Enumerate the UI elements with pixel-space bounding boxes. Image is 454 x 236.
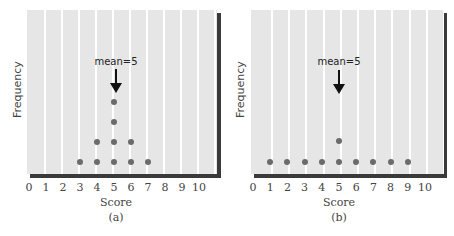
gridline — [409, 10, 411, 174]
data-dot — [405, 159, 411, 165]
x-tick-label: 6 — [128, 181, 135, 194]
gridline — [374, 10, 376, 174]
x-axis-label: Score — [323, 196, 355, 209]
gridline — [214, 10, 216, 174]
x-tick-label: 0 — [250, 181, 257, 194]
x-tick-label: 2 — [284, 181, 291, 194]
gridline — [357, 10, 359, 174]
gridline — [146, 10, 148, 174]
x-tick-label: 9 — [404, 181, 411, 194]
data-dot — [111, 159, 117, 165]
data-dot — [77, 159, 83, 165]
gridline — [44, 10, 46, 174]
panel-label: (a) — [108, 211, 123, 224]
panel-b: Frequency mean=5 012345678910 Score (b) — [227, 0, 454, 236]
mean-arrow-icon — [110, 83, 122, 93]
x-tick-label: 1 — [43, 181, 50, 194]
x-tick-label: 5 — [336, 181, 343, 194]
x-tick-label: 0 — [26, 181, 33, 194]
gridline — [61, 10, 63, 174]
x-tick-label: 6 — [353, 181, 360, 194]
mean-arrow-icon — [333, 84, 345, 94]
gridline — [163, 10, 165, 174]
data-dot — [111, 99, 117, 105]
gridline — [323, 10, 325, 174]
gridline — [426, 10, 428, 174]
data-dot — [336, 159, 342, 165]
gridline — [78, 10, 80, 174]
data-dot — [94, 159, 100, 165]
x-tick-label: 5 — [111, 181, 118, 194]
x-axis-label: Score — [100, 196, 132, 209]
gridline — [288, 10, 290, 174]
x-tick-label: 4 — [94, 181, 101, 194]
data-dot — [145, 159, 151, 165]
x-tick-label: 9 — [179, 181, 186, 194]
data-dot — [111, 139, 117, 145]
mean-annotation: mean=5 — [94, 56, 137, 67]
y-axis-label: Frequency — [234, 61, 247, 118]
x-tick-label: 3 — [77, 181, 84, 194]
data-dot — [111, 119, 117, 125]
data-dot — [128, 139, 134, 145]
x-tick-label: 8 — [162, 181, 169, 194]
mean-annotation: mean=5 — [317, 56, 360, 67]
gridline — [305, 10, 307, 174]
y-axis-label: Frequency — [11, 61, 24, 118]
plot-area — [251, 10, 444, 174]
panel-a: Frequency mean=5 012345678910 Score (a) — [0, 0, 227, 236]
gridline — [197, 10, 199, 174]
panel-label: (b) — [331, 211, 347, 224]
gridline — [129, 10, 131, 174]
x-tick-label: 2 — [60, 181, 67, 194]
gridline — [95, 10, 97, 174]
gridline — [443, 10, 444, 174]
plot-area — [27, 10, 217, 174]
gridline — [180, 10, 182, 174]
data-dot — [336, 138, 342, 144]
x-tick-label: 10 — [192, 181, 206, 194]
x-tick-label: 10 — [418, 181, 432, 194]
data-dot — [94, 139, 100, 145]
gridline — [271, 10, 273, 174]
data-dot — [319, 159, 325, 165]
data-dot — [128, 159, 134, 165]
x-tick-label: 3 — [301, 181, 308, 194]
data-dot — [388, 159, 394, 165]
x-tick-label: 8 — [387, 181, 394, 194]
x-tick-label: 7 — [370, 181, 377, 194]
data-dot — [302, 159, 308, 165]
x-tick-label: 7 — [145, 181, 152, 194]
gridline — [391, 10, 393, 174]
x-tick-label: 1 — [267, 181, 274, 194]
x-tick-label: 4 — [318, 181, 325, 194]
